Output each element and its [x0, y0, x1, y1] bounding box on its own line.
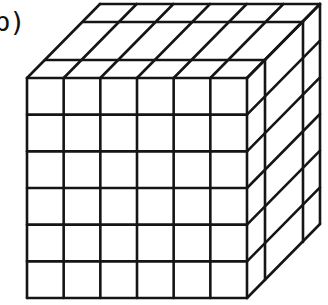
top-receding-line	[27, 4, 100, 78]
side-receding-line	[247, 151, 320, 225]
figure-label: b)	[0, 6, 25, 37]
top-receding-line	[64, 4, 137, 78]
top-receding-line	[137, 4, 210, 78]
top-receding-line	[174, 4, 247, 78]
top-receding-line	[100, 4, 173, 78]
cube-grid-drawing	[0, 0, 328, 305]
side-receding-line	[247, 77, 320, 151]
side-receding-line	[247, 187, 320, 261]
side-receding-line	[247, 41, 320, 115]
top-receding-line	[210, 4, 283, 78]
cube-diagram: b)	[0, 0, 328, 305]
side-receding-line	[247, 224, 320, 298]
side-receding-line	[247, 4, 320, 78]
side-receding-line	[247, 114, 320, 188]
